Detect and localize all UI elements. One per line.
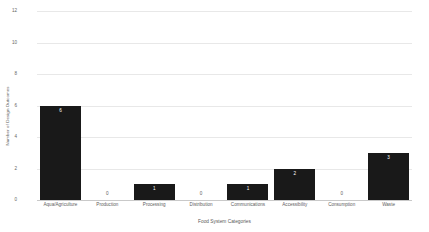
x-axis-tick-label: Distribution: [178, 202, 225, 207]
gridline: [37, 200, 412, 201]
y-axis-tick-label: 12: [0, 9, 17, 14]
plot-area: 121086420 60101203: [37, 11, 412, 200]
bar[interactable]: 3: [368, 153, 409, 200]
y-axis-tick-label: 10: [0, 41, 17, 46]
bar[interactable]: 1: [227, 184, 268, 200]
chart-title: [37, 0, 412, 6]
bar-value-label: 6: [40, 109, 81, 114]
bar-value-label: 1: [227, 187, 268, 192]
bar-slot: 0: [84, 11, 131, 200]
y-axis-tick-label: 0: [0, 198, 17, 203]
bar-value-label: 0: [181, 192, 222, 197]
x-axis-tick-label: Processing: [131, 202, 178, 207]
x-axis-tick-label: Communications: [225, 202, 272, 207]
x-axis-tick-label: Production: [84, 202, 131, 207]
x-axis-tick-label: Waste: [365, 202, 412, 207]
bar-value-label: 2: [274, 172, 315, 177]
bars-layer: 60101203: [37, 11, 412, 200]
bar-value-label: 0: [321, 192, 362, 197]
bar-slot: 6: [37, 11, 84, 200]
bar[interactable]: 1: [134, 184, 175, 200]
y-axis-tick-label: 6: [0, 104, 17, 109]
bar[interactable]: 2: [274, 169, 315, 201]
bar-chart: Number of Design Outcomes 121086420 6010…: [0, 0, 429, 232]
y-axis-tick-label: 2: [0, 167, 17, 172]
y-axis-tick-label: 4: [0, 135, 17, 140]
bar-slot: 1: [131, 11, 178, 200]
x-axis-tick-labels: Aqua/AgricultureProductionProcessingDist…: [37, 202, 412, 207]
x-axis-tick-label: Accessibility: [271, 202, 318, 207]
x-axis-tick-label: Consumption: [318, 202, 365, 207]
bar-slot: 0: [318, 11, 365, 200]
bar-slot: 2: [271, 11, 318, 200]
bar-value-label: 0: [87, 192, 128, 197]
bar-slot: 0: [178, 11, 225, 200]
bar[interactable]: 6: [40, 106, 81, 201]
bar-value-label: 3: [368, 156, 409, 161]
x-axis-title: Food System Categories: [37, 219, 412, 224]
bar-slot: 3: [365, 11, 412, 200]
x-axis-tick-label: Aqua/Agriculture: [37, 202, 84, 207]
bar-value-label: 1: [134, 187, 175, 192]
y-axis-tick-label: 8: [0, 72, 17, 77]
bar-slot: 1: [225, 11, 272, 200]
